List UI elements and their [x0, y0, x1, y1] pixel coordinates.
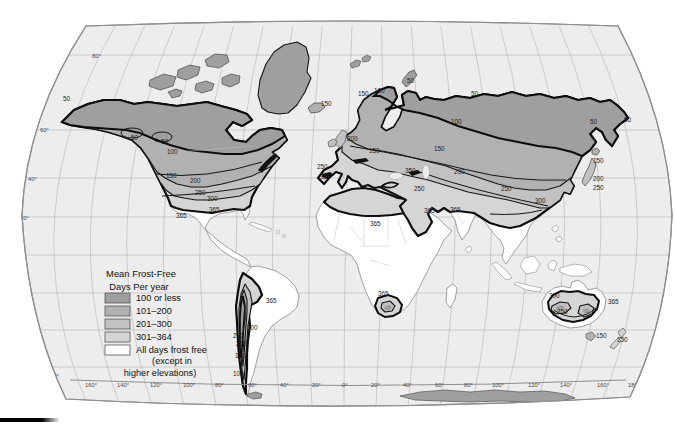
contour-label: 365: [378, 290, 389, 297]
legend-label: 301–364: [136, 332, 172, 342]
legend-row: 100 or less: [105, 293, 181, 303]
figure-frost-free-days-map: 5050501001502002503003653651501501005050…: [0, 0, 676, 427]
contour-label: 150: [593, 157, 604, 164]
contour-label: 100: [374, 87, 385, 94]
contour-label: 200: [236, 340, 247, 347]
longitude-label: 40°: [403, 382, 412, 388]
contour-label: 350: [557, 308, 568, 315]
longitude-label: 120°: [528, 382, 540, 388]
page-rule-bar: [0, 418, 60, 422]
contour-label: 150: [321, 100, 332, 107]
legend-row: 301–364: [105, 332, 172, 342]
contour-label: 365: [450, 206, 461, 213]
contour-label: 150: [166, 172, 177, 179]
caspian-sea: [423, 165, 430, 179]
longitude-label: 140°: [560, 382, 572, 388]
contour-label: 100: [167, 148, 178, 155]
legend-title-line2: Days Per year: [109, 281, 168, 292]
contour-label: 150: [596, 332, 607, 339]
latitude-label: 40°: [28, 176, 37, 182]
latitude-label: 20°: [20, 215, 29, 221]
contour-label: 365: [608, 298, 619, 305]
contour-label: 50: [624, 116, 632, 123]
legend-row: All days frost free: [105, 345, 207, 355]
longitude-label: 100°: [183, 382, 195, 388]
contour-label: 250: [501, 185, 512, 192]
legend-swatch-100-or-less: [105, 293, 130, 303]
latitude-label: 20°: [20, 291, 29, 297]
legend-swatch-201-300: [105, 319, 130, 329]
latitude-label: 180°: [43, 381, 55, 387]
contour-label: 150: [358, 90, 369, 97]
contour-label: 50: [161, 138, 169, 145]
contour-label: 250: [233, 332, 244, 339]
contour-label: 50: [407, 77, 415, 84]
contour-label: 200: [347, 135, 358, 142]
longitude-label: 0°: [342, 382, 348, 388]
contour-label: 365: [424, 207, 435, 214]
contour-label: 250: [617, 336, 628, 343]
contour-label: 350: [320, 173, 331, 180]
longitude-label: 60°: [248, 382, 257, 388]
contour-label: 365: [266, 297, 277, 304]
legend-row: 101–200: [105, 306, 172, 316]
contour-label: 250: [593, 184, 604, 191]
contour-label: 150: [434, 145, 445, 152]
longitude-label: 140°: [117, 382, 129, 388]
legend-label: 100 or less: [136, 293, 181, 303]
longitude-label: 160°: [85, 382, 97, 388]
contour-label: 300: [247, 324, 258, 331]
contour-label: 50: [63, 95, 71, 102]
contour-label: 200: [454, 168, 465, 175]
contour-label: 50: [471, 90, 479, 97]
longitude-label: 80°: [215, 382, 224, 388]
world-map: 5050501001502002503003653651501501005050…: [0, 0, 676, 427]
latitude-label: 80°: [92, 53, 101, 59]
contour-label: 250: [414, 185, 425, 192]
contour-label: 200: [593, 175, 604, 182]
contour-label: 300: [207, 195, 218, 202]
contour-label: 250: [317, 163, 328, 170]
legend-label: 201–300: [136, 319, 172, 329]
legend-footnote-line2: higher elevations): [124, 368, 197, 378]
longitude-label: 40°: [280, 382, 289, 388]
longitude-label: 20°: [312, 382, 321, 388]
contour-label: 300: [535, 197, 546, 204]
contour-label: 365: [370, 220, 381, 227]
contour-label: 100: [451, 118, 462, 125]
longitude-label: 80°: [464, 382, 473, 388]
legend-swatch-301-364: [105, 332, 130, 342]
contour-label: 100: [233, 370, 244, 377]
black-sea: [389, 173, 403, 180]
contour-label: 300: [549, 292, 560, 299]
contour-label: 250: [195, 189, 206, 196]
contour-label: 150: [235, 352, 246, 359]
latitude-label: 40°: [27, 327, 36, 333]
legend-title-line1: Mean Frost-Free: [106, 268, 176, 279]
contour-label: 365: [176, 212, 187, 219]
legend-label: 101–200: [136, 306, 172, 316]
legend-swatch-frost-free: [105, 345, 130, 355]
legend-swatch-101-200: [105, 306, 130, 316]
longitude-label: 20°: [371, 382, 380, 388]
legend-label: All days frost free: [136, 345, 207, 355]
contour-label: 50: [590, 118, 598, 125]
contour-label: 200: [190, 177, 201, 184]
legend-row: 201–300: [105, 319, 172, 329]
longitude-label: 100°: [492, 382, 504, 388]
longitude-label: 120°: [150, 382, 162, 388]
longitude-label: 60°: [435, 382, 444, 388]
legend-footnote-line1: (except in: [152, 356, 192, 366]
contour-label: 50: [131, 134, 139, 141]
contour-label: 365: [209, 206, 220, 213]
longitude-label: 160°: [597, 382, 609, 388]
latitude-label: 60°: [40, 127, 49, 133]
contour-label: 150: [369, 147, 380, 154]
longitude-label: 180°: [628, 382, 640, 388]
contour-label: 350: [405, 167, 416, 174]
latitude-label: 0°: [17, 253, 23, 259]
